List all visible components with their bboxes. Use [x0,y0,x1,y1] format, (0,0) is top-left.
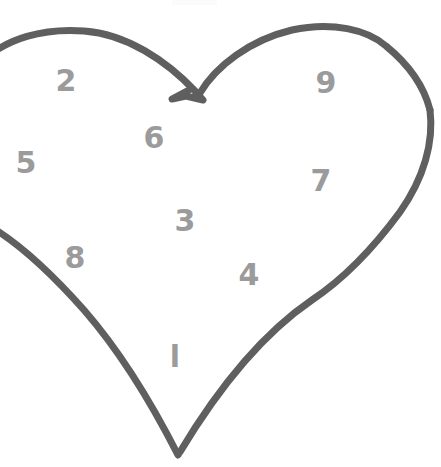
label-5: 5 [16,148,37,178]
heart-right-side [180,110,431,452]
label-4: 4 [239,260,260,290]
label-7: 7 [311,166,332,196]
label-2: 2 [56,66,77,96]
label-6: 6 [144,123,165,153]
label-9: 9 [316,68,337,98]
label-3: 3 [175,206,196,236]
label-1: l [170,342,180,372]
label-8: 8 [65,243,86,273]
drawing-canvas: 29657384l [0,0,441,467]
heart-left-lobe-and-side [0,30,203,100]
heart-left-side [0,224,178,455]
